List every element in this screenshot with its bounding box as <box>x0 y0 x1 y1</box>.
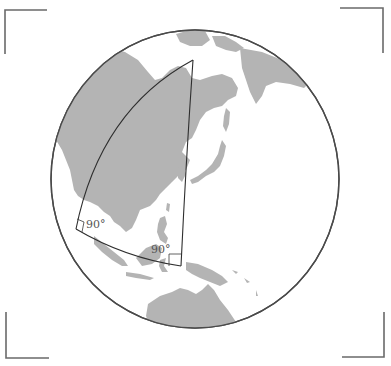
globe-diagram: 90° 90° <box>0 0 391 366</box>
bracket-top-left <box>5 10 47 54</box>
bracket-bottom-right <box>342 312 384 357</box>
angle-label-southeast: 90° <box>151 243 171 256</box>
angle-label-west: 90° <box>86 218 106 231</box>
bracket-top-right <box>340 8 383 53</box>
bracket-bottom-left <box>6 312 49 358</box>
